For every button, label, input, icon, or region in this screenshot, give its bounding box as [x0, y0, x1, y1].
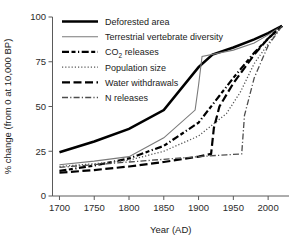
series-line-population-size: [59, 26, 282, 167]
data-series: [59, 26, 282, 173]
y-tick-label: 50: [35, 101, 46, 112]
legend-label: N releases: [105, 93, 149, 103]
x-tick-label: 2000: [258, 202, 279, 213]
legend-label: CO2 releases: [105, 47, 159, 58]
y-tick-label: 75: [35, 56, 46, 67]
x-tick-label: 1850: [153, 202, 174, 213]
y-tick-label: 100: [30, 11, 46, 22]
series-line-co2-releases: [59, 26, 282, 171]
x-tick-label: 1750: [84, 202, 105, 213]
legend-label: Terrestrial vertebrate diversity: [105, 32, 224, 42]
series-line-n-releases: [59, 26, 282, 167]
y-tick-label: 25: [35, 146, 46, 157]
x-tick-label: 1950: [223, 202, 244, 213]
chart-legend: Deforested areaTerrestrial vertebrate di…: [62, 17, 224, 103]
line-chart: 02550751001700175018001850190019502000 D…: [0, 0, 298, 240]
y-tick-label: 0: [41, 190, 46, 201]
legend-label: Deforested area: [105, 17, 170, 27]
series-line-terrestrial-vertebrate-diversity: [59, 26, 282, 165]
x-tick-label: 1700: [49, 202, 70, 213]
chart-figure: 02550751001700175018001850190019502000 D…: [0, 0, 298, 240]
legend-label: Water withdrawals: [105, 78, 179, 88]
y-axis-title: % change (from 0 at 10,000 BP): [2, 39, 13, 175]
x-tick-label: 1800: [118, 202, 139, 213]
x-axis-title: Year (AD): [150, 224, 191, 235]
x-tick-label: 1900: [188, 202, 209, 213]
legend-label: Population size: [105, 63, 166, 73]
